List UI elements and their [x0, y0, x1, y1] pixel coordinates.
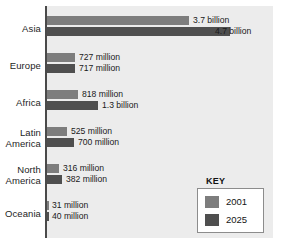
bar-value-asia-2025: 4.7 billion: [215, 26, 251, 36]
bar-latin-america-2001[interactable]: [47, 127, 67, 136]
bar-asia-2025[interactable]: [47, 27, 230, 36]
bar-value-latin-america-2025: 700 million: [78, 137, 119, 147]
category-label-north-america-line1: North: [0, 165, 41, 176]
bar-europe-2025[interactable]: [47, 64, 75, 73]
bar-value-asia-2001: 3.7 billion: [193, 15, 229, 25]
bar-value-europe-2001: 727 million: [79, 52, 120, 62]
bar-value-africa-2025: 1.3 billion: [102, 100, 138, 110]
category-label-north-america-line2: America: [0, 176, 41, 187]
category-label-latin-america-line1: Latin: [0, 128, 41, 139]
bar-africa-2001[interactable]: [47, 90, 78, 99]
bar-north-america-2001[interactable]: [47, 164, 59, 173]
bar-latin-america-2025[interactable]: [47, 138, 74, 147]
bar-north-america-2025[interactable]: [47, 175, 62, 184]
legend-label-2025: 2025: [226, 213, 247, 226]
bar-europe-2001[interactable]: [47, 53, 75, 62]
bar-value-africa-2001: 818 million: [82, 89, 123, 99]
bar-value-north-america-2001: 316 million: [63, 163, 104, 173]
bar-value-oceania-2025: 40 million: [52, 211, 88, 221]
legend-title: KEY: [206, 176, 225, 186]
bar-value-latin-america-2001: 525 million: [71, 126, 112, 136]
bar-value-europe-2025: 717 million: [79, 63, 120, 73]
chart-title-sliver: [46, 0, 166, 4]
legend-swatch-2001-icon: [205, 196, 219, 208]
category-label-latin-america-line2: America: [0, 139, 41, 150]
legend-swatch-2025-icon: [205, 214, 219, 226]
bar-oceania-2001[interactable]: [47, 201, 49, 210]
category-label-africa: Africa: [0, 98, 41, 109]
population-bar-chart: Asia 3.7 billion 4.7 billion Europe 727 …: [0, 0, 282, 247]
category-label-oceania: Oceania: [0, 209, 41, 220]
bar-value-north-america-2025: 382 million: [66, 174, 107, 184]
bar-africa-2025[interactable]: [47, 101, 98, 110]
bar-oceania-2025[interactable]: [47, 212, 49, 221]
bar-value-oceania-2001: 31 million: [52, 200, 88, 210]
category-label-europe: Europe: [0, 61, 41, 72]
bar-asia-2001[interactable]: [47, 16, 189, 25]
category-label-asia: Asia: [0, 24, 41, 35]
legend-box: 2001 2025: [197, 188, 264, 233]
legend-label-2001: 2001: [226, 195, 247, 208]
